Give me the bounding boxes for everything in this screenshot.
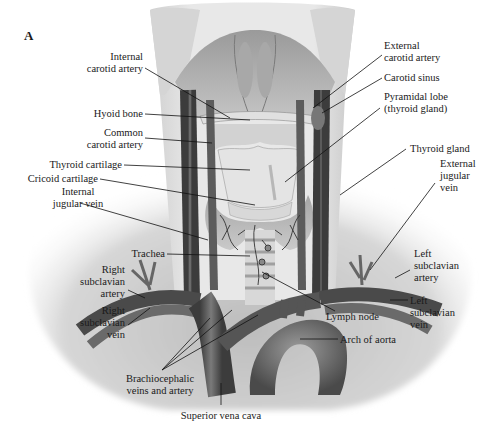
label-line: External <box>440 158 476 169</box>
neck-anatomy-illustration: A Internalcarotid arteryHyoid boneCommon… <box>0 0 498 432</box>
label-text: Pyramidal lobe(thyroid gland) <box>384 91 448 115</box>
label-line: Hyoid bone <box>94 108 144 119</box>
label-line: Pyramidal lobe <box>384 91 448 102</box>
label-line: jugular <box>439 170 470 181</box>
label-text: Thyroid cartilage <box>49 159 122 170</box>
label-line: jugular vein <box>52 198 104 209</box>
label-text: Hyoid bone <box>94 108 144 119</box>
trachea <box>245 230 275 305</box>
label-line: vein <box>107 329 126 340</box>
label-line: Brachiocephalic <box>126 373 195 384</box>
label-line: Thyroid cartilage <box>49 159 122 170</box>
label-line: Trachea <box>132 248 166 259</box>
label-line: vein <box>410 319 429 330</box>
label-line: carotid artery <box>87 63 144 74</box>
label-line: artery <box>414 272 439 283</box>
label-line: Left <box>414 248 432 259</box>
label-text: Internalcarotid artery <box>87 51 144 74</box>
label-line: subclavian <box>80 276 126 287</box>
anatomy-figure: A Internalcarotid arteryHyoid boneCommon… <box>0 0 498 432</box>
label-line: External <box>384 40 420 51</box>
label-line: Superior vena cava <box>181 410 262 421</box>
label-line: vein <box>440 182 459 193</box>
label-text: Trachea <box>132 248 166 259</box>
label-line: Arch of aorta <box>340 334 396 345</box>
label-line: Left <box>410 295 428 306</box>
label-text: Carotid sinus <box>384 72 440 83</box>
label-line: subclavian <box>80 317 126 328</box>
label-line: subclavian <box>410 307 456 318</box>
label-line: Thyroid gland <box>410 143 471 154</box>
label-line: veins and artery <box>126 385 194 396</box>
label-line: Lymph node <box>326 311 379 322</box>
label-text: Arch of aorta <box>340 334 396 345</box>
label-text: Superior vena cava <box>181 410 262 421</box>
label-line: Right <box>102 264 125 275</box>
label-text: Thyroid gland <box>410 143 471 154</box>
label-line: carotid artery <box>87 139 144 150</box>
label-line: Internal <box>110 51 143 62</box>
panel-letter: A <box>24 28 34 43</box>
label-line: (thyroid gland) <box>384 103 448 115</box>
label-line: subclavian <box>414 260 460 271</box>
label-line: Internal <box>62 186 95 197</box>
label-line: Carotid sinus <box>384 72 440 83</box>
label-text: Externaljugularvein <box>439 158 476 193</box>
label-text: Externalcarotid artery <box>384 40 441 63</box>
label-text: Brachiocephalicveins and artery <box>126 373 195 396</box>
label-text: Lymph node <box>326 311 379 322</box>
label-text: Commoncarotid artery <box>87 127 144 150</box>
label-line: Common <box>104 127 144 138</box>
label-text: Cricoid cartilage <box>28 173 99 184</box>
label-line: Cricoid cartilage <box>28 173 99 184</box>
label-line: Right <box>102 305 125 316</box>
label-line: artery <box>101 288 126 299</box>
label-line: carotid artery <box>384 52 441 63</box>
